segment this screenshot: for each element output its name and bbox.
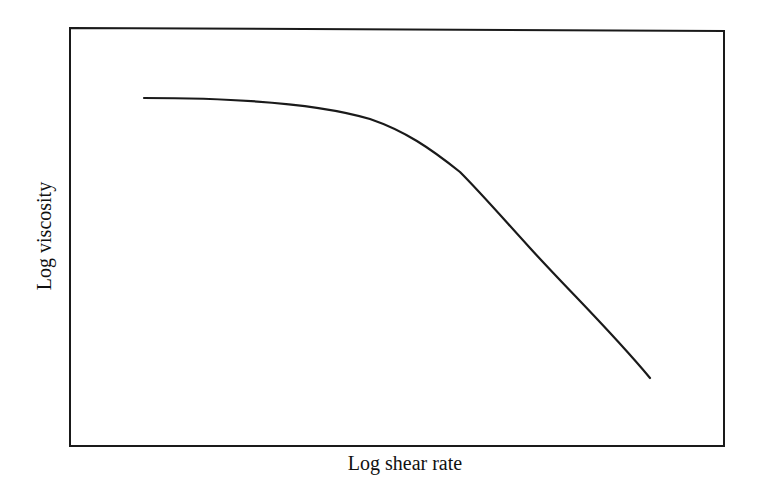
viscosity-curve [144,98,650,378]
x-axis-label: Log shear rate [270,452,540,475]
plot-frame [70,28,724,446]
chart-plot [0,0,760,494]
y-axis-label: Log viscosity [33,182,56,290]
